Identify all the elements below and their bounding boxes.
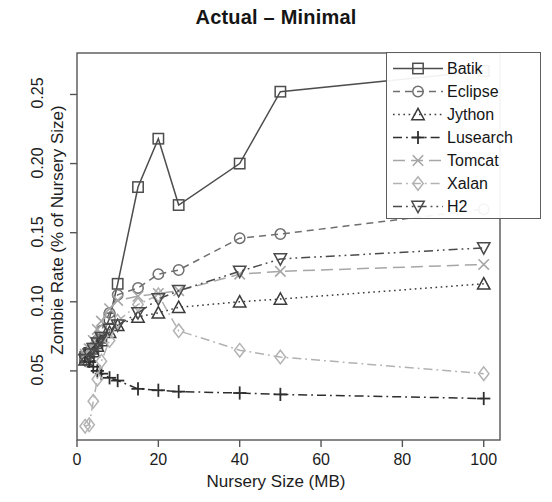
legend-key-eclipse-icon	[391, 80, 445, 103]
y-tick-label: 0.10	[29, 278, 47, 324]
data-point-marker	[411, 131, 424, 144]
x-tick-label: 20	[135, 451, 181, 469]
data-point-marker	[88, 395, 98, 409]
data-point-marker	[172, 385, 185, 398]
legend-item-lusearch[interactable]: Lusearch	[387, 126, 540, 149]
chart-root: Actual – Minimal Zombie Rate (% of Nurse…	[0, 0, 552, 502]
data-point-marker	[274, 388, 287, 401]
x-tick-label: 60	[298, 451, 344, 469]
data-point-marker	[111, 374, 124, 387]
legend-label: Tomcat	[447, 150, 499, 171]
series-line	[85, 264, 484, 354]
legend-key-jython-icon	[391, 103, 445, 126]
legend-label: Batik	[447, 58, 483, 79]
data-point-marker	[152, 384, 165, 397]
series-tomcat	[80, 259, 489, 359]
legend-key-lusearch-icon	[391, 126, 445, 149]
legend-item-eclipse[interactable]: Eclipse	[387, 80, 540, 103]
series-line	[85, 354, 484, 398]
data-point-marker	[478, 278, 490, 289]
legend-item-xalan[interactable]: Xalan	[387, 172, 540, 195]
series-line	[85, 295, 484, 426]
series-jython	[79, 278, 490, 365]
series-eclipse	[80, 204, 489, 365]
data-point-marker	[479, 259, 489, 269]
data-point-marker	[131, 382, 144, 395]
legend-label: Lusearch	[447, 127, 513, 148]
legend-key-xalan-icon	[391, 172, 445, 195]
data-point-marker	[412, 108, 424, 119]
legend-item-jython[interactable]: Jython	[387, 103, 540, 126]
legend-key-h2-icon	[391, 195, 445, 218]
legend-item-h2[interactable]: H2	[387, 195, 540, 218]
legend-label: Jython	[447, 104, 494, 125]
y-tick-label: 0.05	[29, 347, 47, 393]
x-tick-label: 100	[461, 451, 507, 469]
legend-label: H2	[447, 196, 467, 217]
x-tick-label: 0	[54, 451, 100, 469]
data-point-marker	[477, 392, 490, 405]
data-point-marker	[233, 386, 246, 399]
legend-key-tomcat-icon	[391, 149, 445, 172]
legend-key-batik-icon	[391, 57, 445, 80]
y-tick-label: 0.25	[29, 70, 47, 116]
legend-label: Eclipse	[447, 81, 499, 102]
legend-item-batik[interactable]: Batik	[387, 57, 540, 80]
y-tick-label: 0.20	[29, 140, 47, 186]
x-tick-label: 80	[379, 451, 425, 469]
legend-item-tomcat[interactable]: Tomcat	[387, 149, 540, 172]
legend: BatikEclipseJythonLusearchTomcatXalanH2	[386, 52, 541, 219]
x-tick-label: 40	[217, 451, 263, 469]
y-tick-label: 0.15	[29, 209, 47, 255]
legend-label: Xalan	[447, 173, 488, 194]
